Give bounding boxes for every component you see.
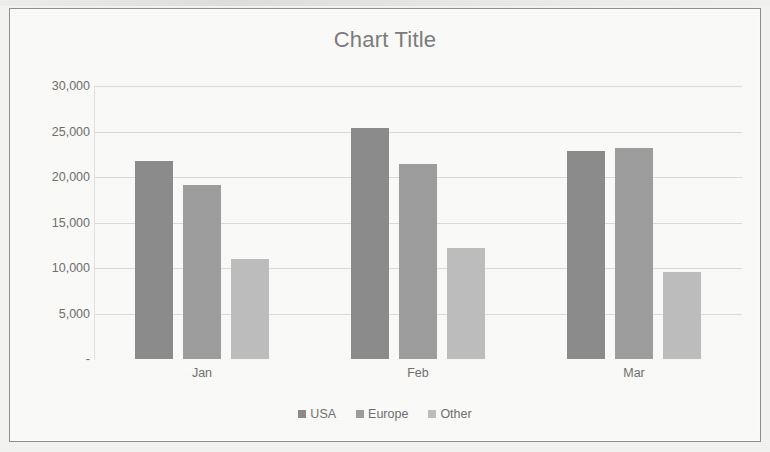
bar-other-jan[interactable] [231, 259, 269, 359]
chart-object-frame[interactable]: Chart Title 30,00025,00020,00015,00010,0… [9, 8, 761, 442]
bar-other-feb[interactable] [447, 248, 485, 359]
legend-item-other[interactable]: Other [428, 407, 471, 421]
legend-swatch-icon-usa [298, 410, 306, 418]
value-axis-tick-label: - [16, 352, 90, 366]
legend-label-usa: USA [310, 407, 336, 421]
scan-artifact-strip [0, 0, 770, 6]
bar-usa-jan[interactable] [135, 161, 173, 359]
bar-usa-mar[interactable] [567, 151, 605, 359]
bar-group-mar [526, 86, 742, 359]
bar-europe-mar[interactable] [615, 148, 653, 359]
value-axis-tick-label: 5,000 [16, 307, 90, 321]
scanned-page: Chart Title 30,00025,00020,00015,00010,0… [0, 0, 770, 452]
category-label-mar: Mar [526, 366, 742, 380]
legend-label-other: Other [440, 407, 471, 421]
legend-item-europe[interactable]: Europe [356, 407, 408, 421]
legend-swatch-icon-other [428, 410, 436, 418]
bar-group-feb [310, 86, 526, 359]
value-axis-tick-label: 10,000 [16, 261, 90, 275]
bar-usa-feb[interactable] [351, 128, 389, 359]
bar-series-container [94, 86, 742, 359]
chart-legend[interactable]: USAEuropeOther [12, 407, 758, 421]
value-axis-tick-label: 20,000 [16, 170, 90, 184]
bar-europe-jan[interactable] [183, 185, 221, 359]
value-axis[interactable]: 30,00025,00020,00015,00010,0005,000- [12, 86, 90, 359]
category-axis[interactable]: JanFebMar [94, 366, 742, 380]
legend-item-usa[interactable]: USA [298, 407, 336, 421]
bar-group-jan [94, 86, 310, 359]
value-axis-tick-label: 30,000 [16, 79, 90, 93]
legend-swatch-icon-europe [356, 410, 364, 418]
bar-europe-feb[interactable] [399, 164, 437, 359]
legend-label-europe: Europe [368, 407, 408, 421]
value-axis-tick-label: 15,000 [16, 216, 90, 230]
bar-other-mar[interactable] [663, 272, 701, 359]
chart-title[interactable]: Chart Title [12, 27, 758, 53]
value-axis-tick-label: 25,000 [16, 125, 90, 139]
chart-plot-container: Chart Title 30,00025,00020,00015,00010,0… [12, 11, 758, 439]
category-label-feb: Feb [310, 366, 526, 380]
category-label-jan: Jan [94, 366, 310, 380]
